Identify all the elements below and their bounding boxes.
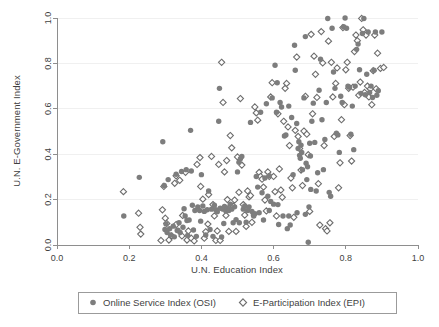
data-point-osi <box>176 220 181 225</box>
data-point-osi <box>221 221 226 226</box>
data-point-osi <box>316 87 321 92</box>
data-point-osi <box>246 204 251 209</box>
data-point-osi <box>361 16 366 21</box>
data-point-osi <box>342 15 347 20</box>
y-tick-label: 1.0 <box>43 12 53 25</box>
data-point-osi <box>199 172 204 177</box>
data-point-osi <box>300 167 305 172</box>
data-point-osi <box>259 190 264 195</box>
data-point-osi <box>189 168 194 173</box>
data-point-osi <box>219 234 224 239</box>
data-point-osi <box>298 142 303 147</box>
data-point-osi <box>267 173 272 178</box>
data-point-osi <box>255 184 260 189</box>
data-point-osi <box>364 72 369 77</box>
data-point-osi <box>180 225 185 230</box>
x-tick-label: 0.8 <box>340 253 353 263</box>
data-point-osi <box>332 86 337 91</box>
data-point-osi <box>315 170 320 175</box>
data-point-osi <box>269 95 274 100</box>
data-point-osi <box>267 208 272 213</box>
data-point-osi <box>313 188 318 193</box>
data-point-osi <box>303 34 308 39</box>
data-point-osi <box>350 103 355 108</box>
data-point-osi <box>290 172 295 177</box>
data-point-osi <box>306 204 311 209</box>
data-point-osi <box>311 100 316 105</box>
data-point-osi <box>305 164 310 169</box>
data-point-osi <box>235 169 240 174</box>
data-point-osi <box>175 228 180 233</box>
data-point-osi <box>379 29 384 34</box>
data-point-osi <box>288 222 293 227</box>
data-point-osi <box>256 210 261 215</box>
data-point-osi <box>304 177 309 182</box>
data-point-osi <box>210 234 215 239</box>
data-point-osi <box>188 128 193 133</box>
y-tick-label: 0.2 <box>43 193 53 206</box>
data-point-osi <box>286 213 291 218</box>
data-point-osi <box>299 150 304 155</box>
x-tick-label: 0.6 <box>267 253 280 263</box>
data-point-osi <box>335 132 340 137</box>
data-point-osi <box>306 240 311 245</box>
data-point-osi <box>351 147 356 152</box>
data-point-osi <box>200 203 205 208</box>
data-point-osi <box>275 202 280 207</box>
data-point-osi <box>312 140 317 145</box>
data-point-osi <box>163 221 168 226</box>
data-point-osi <box>338 94 343 99</box>
data-point-osi <box>185 233 190 238</box>
y-tick-label: 0.0 <box>43 239 53 252</box>
data-point-osi <box>303 212 308 217</box>
data-point-osi <box>190 203 195 208</box>
data-point-osi <box>258 110 263 115</box>
data-point-osi <box>261 217 266 222</box>
data-point-osi <box>165 177 170 182</box>
data-point-osi <box>171 223 176 228</box>
data-point-osi <box>309 119 314 124</box>
data-point-osi <box>328 193 333 198</box>
data-point-osi <box>286 103 291 108</box>
data-point-osi <box>324 100 329 105</box>
x-tick-label: 0.2 <box>123 253 136 263</box>
x-axis-title: U.N. Education Index <box>191 264 283 275</box>
data-point-osi <box>217 86 222 91</box>
data-point-osi <box>371 68 376 73</box>
data-point-osi <box>355 41 360 46</box>
data-point-osi <box>308 153 313 158</box>
data-point-osi <box>308 187 313 192</box>
data-point-osi <box>203 232 208 237</box>
data-point-osi <box>347 85 352 90</box>
data-point-osi <box>184 218 189 223</box>
data-point-osi <box>232 204 237 209</box>
data-point-osi <box>239 154 244 159</box>
data-point-osi <box>301 95 306 100</box>
data-point-osi <box>172 234 177 239</box>
data-point-osi <box>206 188 211 193</box>
data-point-osi <box>344 26 349 31</box>
data-point-osi <box>181 206 186 211</box>
data-point-osi <box>307 141 312 146</box>
data-point-osi <box>339 100 344 105</box>
data-point-osi <box>321 167 326 172</box>
data-point-osi <box>197 208 202 213</box>
data-point-osi <box>121 213 126 218</box>
data-point-osi <box>179 169 184 174</box>
data-point-osi <box>329 26 334 31</box>
data-point-osi <box>254 174 259 179</box>
data-point-osi <box>272 63 277 68</box>
x-tick-label: 1.0 <box>412 253 425 263</box>
data-point-osi <box>319 117 324 122</box>
data-point-osi <box>352 83 357 88</box>
legend-label-osi: Online Service Index (OSI) <box>103 297 216 308</box>
data-point-osi <box>283 132 288 137</box>
y-tick-label: 0.8 <box>43 57 53 70</box>
x-tick-label: 0.0 <box>51 253 64 263</box>
data-point-osi <box>368 83 373 88</box>
data-point-osi <box>275 80 280 85</box>
data-point-osi <box>376 88 381 93</box>
data-point-osi <box>294 210 299 215</box>
data-point-osi <box>337 150 342 155</box>
y-tick-label: 0.6 <box>43 103 53 116</box>
